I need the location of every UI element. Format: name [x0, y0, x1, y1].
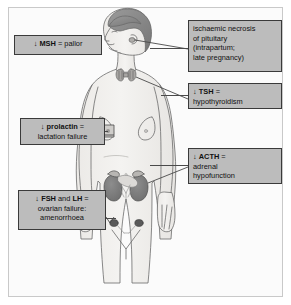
acth-equals: = [221, 152, 225, 161]
prolactin-equals: = [80, 122, 84, 131]
acth-effect-line-1: adrenal [193, 162, 277, 172]
acth-arrow-icon: ↓ [193, 152, 197, 161]
pituitary-line-3: (intrapartum; [193, 43, 277, 53]
fshlh-arrow-icon: ↓ [35, 194, 39, 203]
acth-hormone-label: ACTH [199, 152, 220, 161]
prolactin-effect-label: lactation failure [25, 132, 100, 142]
tsh-effect-label: hypothyroidism [193, 97, 277, 107]
right-nipple [144, 129, 147, 132]
callout-msh[interactable]: ↓ MSH = pallor [14, 35, 102, 55]
msh-effect-label: = pallor [58, 39, 82, 48]
tsh-equals: = [216, 87, 220, 96]
prolactin-arrow-icon: ↓ [41, 122, 45, 131]
callout-prolactin[interactable]: ↓ prolactin = lactation failure [20, 118, 105, 145]
fshlh-effect-line-1: ovarian failure: [23, 204, 101, 214]
callout-pituitary[interactable]: ischaemic necrosis of pituitary (intrapa… [188, 20, 282, 72]
acth-effect-line-2: hypofunction [193, 171, 277, 181]
pituitary-line-1: ischaemic necrosis [193, 24, 277, 34]
callout-acth[interactable]: ↓ ACTH = adrenal hypofunction [188, 148, 282, 184]
hypopituitarism-diagram: ↓ MSH = pallor ischaemic necrosis of pit… [0, 0, 291, 305]
pituitary-gland [129, 38, 135, 43]
pituitary-line-4: late pregnancy) [193, 53, 277, 63]
lh-hormone-label: LH [72, 194, 82, 203]
tsh-arrow-icon: ↓ [193, 87, 197, 96]
prolactin-hormone-label: prolactin [47, 122, 78, 131]
msh-hormone-label: MSH [39, 39, 55, 48]
callout-fshlh[interactable]: ↓ FSH and LH = ovarian failure: amenorrh… [18, 190, 106, 230]
tsh-hormone-label: TSH [199, 87, 214, 96]
fshlh-effect-line-2: amenorrhoea [23, 213, 101, 223]
callout-tsh[interactable]: ↓ TSH = hypothyroidism [188, 83, 282, 109]
pituitary-line-2: of pituitary [193, 34, 277, 44]
fshlh-equals: = [84, 194, 88, 203]
fshlh-conjunction: and [58, 194, 70, 203]
fsh-hormone-label: FSH [41, 194, 56, 203]
msh-arrow-icon: ↓ [34, 39, 38, 48]
